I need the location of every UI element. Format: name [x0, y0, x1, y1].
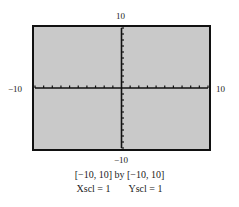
- y-max-label: 10: [116, 11, 125, 21]
- x-max-label: 10: [216, 84, 225, 94]
- xscl-label: Xscl = 1: [77, 183, 111, 194]
- x-min-label: −10: [8, 84, 22, 94]
- scale-caption: Xscl = 1Yscl = 1: [0, 183, 239, 195]
- y-min-label: −10: [114, 155, 128, 165]
- window-caption: [−10, 10] by [−10, 10]: [0, 169, 239, 181]
- yscl-label: Yscl = 1: [129, 183, 163, 194]
